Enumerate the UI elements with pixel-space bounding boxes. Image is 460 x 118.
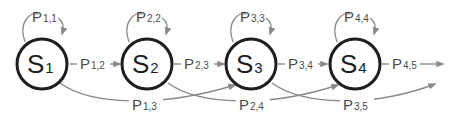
label-p44: P4,4 bbox=[344, 8, 369, 25]
markov-chain-diagram: P1,3 P2,4 P3,5 P1,1 P2,2 P3,3 P4,4 P1,2 … bbox=[0, 0, 460, 118]
state-s4: S4 bbox=[330, 39, 380, 89]
label-p45: P4,5 bbox=[392, 55, 417, 72]
label-p12: P1,2 bbox=[80, 55, 105, 72]
loop-p11-tail bbox=[58, 18, 63, 34]
label-p33: P3,3 bbox=[240, 8, 265, 25]
self-loops: P1,1 P2,2 P3,3 P4,4 bbox=[23, 8, 375, 42]
loop-p33-tail bbox=[266, 18, 271, 34]
label-p11: P1,1 bbox=[32, 8, 57, 25]
state-s3: S3 bbox=[226, 39, 276, 89]
state-s2: S2 bbox=[122, 39, 172, 89]
label-p22: P2,2 bbox=[136, 8, 161, 25]
state-s1: S1 bbox=[17, 39, 67, 89]
label-p34: P3,4 bbox=[288, 55, 313, 72]
loop-p22-tail bbox=[162, 18, 167, 34]
label-p23: P2,3 bbox=[184, 55, 209, 72]
skip-edge-labels: P1,3 P2,4 P3,5 bbox=[129, 95, 374, 113]
loop-p44-tail bbox=[370, 18, 375, 34]
